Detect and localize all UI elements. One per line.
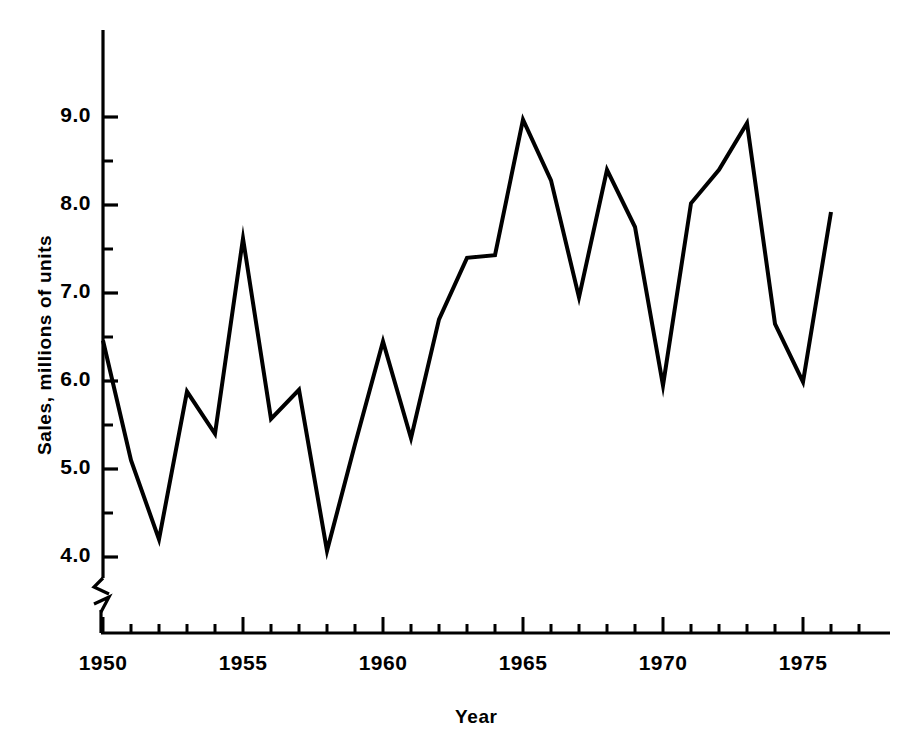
y-axis-tick-label: 8.0 (60, 191, 91, 215)
y-axis-tick-label: 5.0 (60, 455, 91, 479)
chart-figure: Sales, millions of units Year 4.05.06.07… (0, 0, 904, 736)
y-axis-break-lower-icon (94, 597, 109, 612)
y-axis-tick-label: 9.0 (60, 103, 91, 127)
data-series-line (103, 120, 831, 551)
x-axis-tick-label: 1970 (623, 651, 703, 675)
y-axis-tick-label: 7.0 (60, 279, 91, 303)
y-axis-tick-label: 6.0 (60, 367, 91, 391)
x-axis-tick-label: 1955 (203, 651, 283, 675)
y-axis-title: Sales, millions of units (34, 235, 56, 455)
y-axis-tick-label: 4.0 (60, 543, 91, 567)
chart-canvas (0, 0, 904, 736)
y-axis-break-upper-icon (94, 578, 109, 594)
x-axis-title: Year (455, 706, 498, 728)
x-axis-tick-label: 1975 (763, 651, 843, 675)
x-axis-tick-label: 1965 (483, 651, 563, 675)
x-axis-tick-label: 1960 (343, 651, 423, 675)
x-axis-tick-label: 1950 (63, 651, 143, 675)
